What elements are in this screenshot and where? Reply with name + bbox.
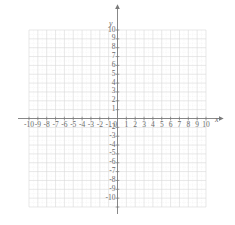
- y-tick-label: 6: [98, 61, 116, 69]
- y-tick-label: -8: [98, 176, 116, 184]
- x-axis-label: x: [215, 115, 219, 124]
- y-tick-label: -10: [98, 194, 116, 202]
- x-tick-label: 10: [197, 121, 215, 129]
- y-tick-label: -3: [98, 132, 116, 140]
- y-axis-label: y: [109, 19, 113, 28]
- y-tick-label: -7: [98, 167, 116, 175]
- y-tick-label: 4: [98, 79, 116, 87]
- y-tick-label: 2: [98, 96, 116, 104]
- coordinate-grid-svg: [0, 0, 235, 225]
- y-tick-label: 7: [98, 52, 116, 60]
- y-tick-label: 5: [98, 70, 116, 78]
- y-tick-label: 1: [98, 105, 116, 113]
- axes-lines: [18, 9, 219, 214]
- y-tick-label: 3: [98, 87, 116, 95]
- y-tick-label: -9: [98, 185, 116, 193]
- y-tick-label: -4: [98, 141, 116, 149]
- coordinate-plane-figure: -10-9-8-7-6-5-4-3-2-11234567891010987654…: [0, 0, 235, 225]
- y-tick-label: 9: [98, 34, 116, 42]
- y-tick-label: -5: [98, 149, 116, 157]
- origin-label: 0: [112, 121, 117, 129]
- y-tick-label: 8: [98, 43, 116, 51]
- y-tick-label: -6: [98, 158, 116, 166]
